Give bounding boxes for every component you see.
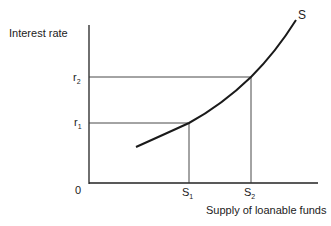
- r2-label: r2: [73, 72, 81, 85]
- r1-label: r1: [74, 117, 82, 130]
- curve-label: S: [298, 9, 306, 21]
- s2-label: S2: [244, 187, 255, 200]
- supply-curve: [136, 20, 296, 147]
- origin-label: 0: [75, 185, 81, 196]
- s1-label: S1: [182, 187, 193, 200]
- y-axis-label: Interest rate: [9, 28, 68, 39]
- x-axis-label: Supply of loanable funds: [206, 205, 326, 216]
